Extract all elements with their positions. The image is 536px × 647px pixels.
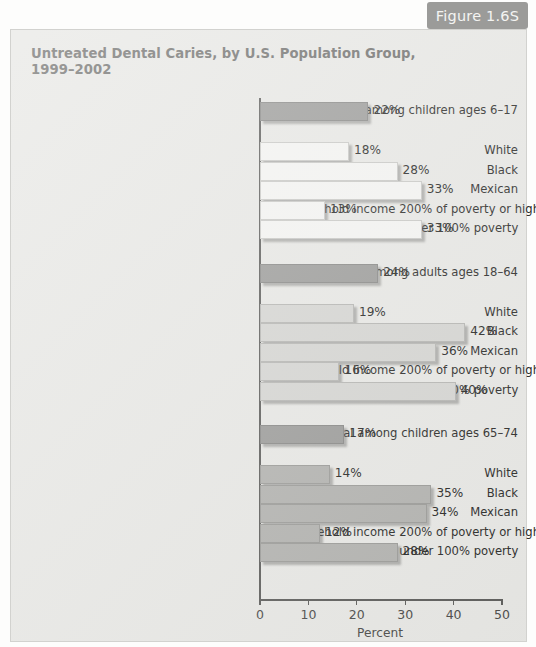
bar-sub-g1-2	[260, 343, 436, 362]
bar-sub-g1-1	[260, 323, 465, 342]
bar-value-label: 19%	[359, 304, 386, 321]
figure-number-badge: Figure 1.6S	[427, 2, 528, 29]
x-tick-40	[453, 599, 454, 605]
bar-value-label: 33%	[427, 220, 454, 237]
bar-value-label: 40%	[461, 382, 488, 399]
bar-value-label: 14%	[335, 465, 362, 482]
bar-row: Black35%	[11, 485, 526, 502]
bar-value-label: 13%	[330, 201, 357, 218]
x-tick-20	[356, 599, 357, 605]
x-tick-50	[501, 599, 502, 605]
x-tick-label-10: 10	[300, 607, 316, 622]
bar-row: White14%	[11, 465, 526, 482]
bar-total-g2	[260, 425, 344, 444]
bar-row: Total among children ages 65–7417%	[11, 425, 526, 442]
bar-sub-g2-3	[260, 524, 320, 543]
bar-row: Household income under 100% poverty40%	[11, 382, 526, 399]
bar-value-label: 18%	[354, 142, 381, 159]
x-tick-label-0: 0	[256, 607, 264, 622]
bar-row: Household income 200% of poverty or high…	[11, 524, 526, 541]
bar-category-label: Household income 200% of poverty or high…	[288, 524, 526, 541]
bar-value-label: 28%	[403, 543, 430, 560]
bar-value-label: 28%	[403, 162, 430, 179]
bar-value-label: 17%	[349, 425, 376, 442]
bar-value-label: 24%	[383, 264, 410, 281]
bar-sub-g0-4	[260, 220, 422, 239]
x-tick-label-30: 30	[397, 607, 413, 622]
bar-row: White19%	[11, 304, 526, 321]
bar-row: Household income 200% of poverty or high…	[11, 362, 526, 379]
bar-sub-g0-3	[260, 201, 325, 220]
x-tick-label-40: 40	[446, 607, 462, 622]
bar-sub-g0-1	[260, 162, 398, 181]
bar-sub-g2-2	[260, 504, 427, 523]
bar-total-g0	[260, 102, 368, 121]
bar-sub-g0-0	[260, 142, 349, 161]
bar-value-label: 12%	[325, 524, 352, 541]
x-tick-label-50: 50	[494, 607, 510, 622]
x-tick-0	[259, 599, 260, 605]
plot-area: 01020304050 Percent Total among children…	[11, 30, 526, 641]
bar-total-g1	[260, 264, 378, 283]
x-tick-10	[308, 599, 309, 605]
bar-value-label: 16%	[344, 362, 371, 379]
bar-row: Mexican36%	[11, 343, 526, 360]
bar-value-label: 33%	[427, 181, 454, 198]
bar-sub-g2-0	[260, 465, 330, 484]
x-tick-label-20: 20	[349, 607, 365, 622]
figure-root: Figure 1.6S Untreated Dental Caries, by …	[0, 0, 536, 647]
bar-row: Mexican34%	[11, 504, 526, 521]
bar-value-label: 22%	[373, 102, 400, 119]
bar-value-label: 34%	[432, 504, 459, 521]
bar-value-label: 35%	[436, 485, 463, 502]
x-axis-line	[259, 599, 501, 601]
bar-row: Black42%	[11, 323, 526, 340]
chart-panel: Untreated Dental Caries, by U.S. Populat…	[10, 29, 527, 642]
bar-sub-g1-4	[260, 382, 456, 401]
x-tick-30	[405, 599, 406, 605]
bar-value-label: 42%	[470, 323, 497, 340]
bar-sub-g2-4	[260, 543, 398, 562]
bar-sub-g0-2	[260, 181, 422, 200]
bar-row: Household income 200% of poverty or high…	[11, 201, 526, 218]
bar-row: Total among adults ages 18–6424%	[11, 264, 526, 281]
bar-row: Total among children ages 6–1722%	[11, 102, 526, 119]
bar-row: Household income under 100% poverty28%	[11, 543, 526, 560]
bar-value-label: 36%	[441, 343, 468, 360]
bar-row: Black28%	[11, 162, 526, 179]
bar-row: White18%	[11, 142, 526, 159]
bar-sub-g1-3	[260, 362, 339, 381]
bar-row: Mexican33%	[11, 181, 526, 198]
x-axis-label: Percent	[357, 626, 403, 640]
bar-row: Household income under 100% poverty33%	[11, 220, 526, 237]
bar-sub-g2-1	[260, 485, 431, 504]
figure-number-label: Figure 1.6S	[436, 8, 519, 24]
bar-sub-g1-0	[260, 304, 354, 323]
